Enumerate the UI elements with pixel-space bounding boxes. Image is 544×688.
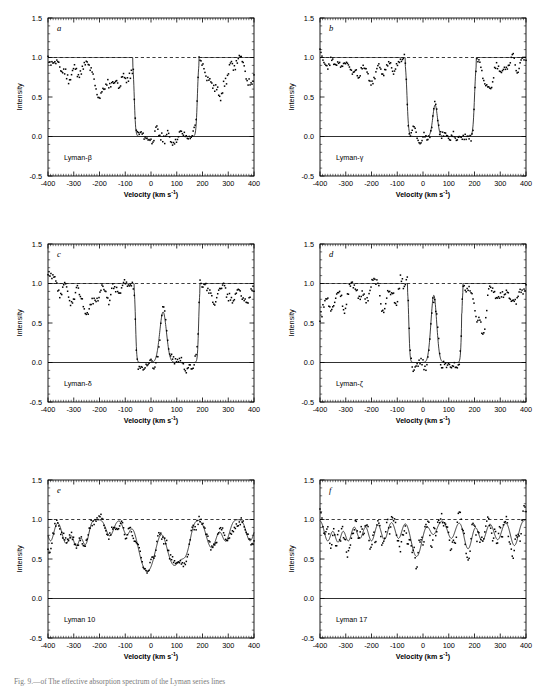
svg-text:0: 0 xyxy=(421,179,425,188)
panel-container-a: -400-300-200-1000100200300400-0.50.00.51… xyxy=(0,0,272,226)
panel-container-e: -400-300-200-1000100200300400-0.50.00.51… xyxy=(0,462,272,688)
svg-text:1.5: 1.5 xyxy=(32,240,42,249)
svg-text:100: 100 xyxy=(171,405,183,414)
line-name-label: Lyman-ζ xyxy=(336,379,364,388)
svg-text:0.0: 0.0 xyxy=(304,358,314,367)
panel-letter: d xyxy=(329,249,334,259)
svg-text:200: 200 xyxy=(196,641,208,650)
panel-letter: a xyxy=(57,23,61,33)
svg-text:100: 100 xyxy=(443,405,455,414)
data-points xyxy=(47,271,255,374)
svg-text:-200: -200 xyxy=(364,641,379,650)
svg-text:1.0: 1.0 xyxy=(32,515,42,524)
svg-text:300: 300 xyxy=(222,641,234,650)
data-points xyxy=(47,55,255,146)
svg-text:-400: -400 xyxy=(41,179,56,188)
svg-text:-100: -100 xyxy=(390,641,405,650)
x-axis-ticks: -400-300-200-1000100200300400 xyxy=(41,480,260,650)
svg-text:300: 300 xyxy=(222,179,234,188)
svg-text:-300: -300 xyxy=(66,179,81,188)
panel-container-f: -400-300-200-1000100200300400-0.50.00.51… xyxy=(272,462,544,688)
data-points xyxy=(319,274,527,372)
svg-text:-200: -200 xyxy=(92,179,107,188)
panel-b: -400-300-200-1000100200300400-0.50.00.51… xyxy=(272,0,544,226)
svg-text:1.0: 1.0 xyxy=(304,53,314,62)
svg-text:1.5: 1.5 xyxy=(304,14,314,23)
svg-text:0: 0 xyxy=(421,405,425,414)
y-axis-label: Intensity xyxy=(287,309,296,337)
svg-text:0.5: 0.5 xyxy=(304,93,314,102)
svg-text:-100: -100 xyxy=(118,405,133,414)
svg-text:-300: -300 xyxy=(338,405,353,414)
svg-text:300: 300 xyxy=(494,405,506,414)
svg-text:-300: -300 xyxy=(338,641,353,650)
svg-text:-0.5: -0.5 xyxy=(29,172,42,181)
svg-text:1.5: 1.5 xyxy=(304,476,314,485)
panel-c: -400-300-200-1000100200300400-0.50.00.51… xyxy=(0,226,272,452)
x-axis-ticks: -400-300-200-1000100200300400 xyxy=(313,244,532,414)
svg-text:-100: -100 xyxy=(390,405,405,414)
line-name-label: Lyman 17 xyxy=(336,615,367,624)
svg-text:200: 200 xyxy=(468,641,480,650)
svg-text:200: 200 xyxy=(468,405,480,414)
svg-text:-400: -400 xyxy=(313,405,328,414)
svg-text:1.5: 1.5 xyxy=(304,240,314,249)
x-axis-ticks: -400-300-200-1000100200300400 xyxy=(41,244,260,414)
svg-text:-300: -300 xyxy=(66,405,81,414)
svg-text:0.5: 0.5 xyxy=(304,555,314,564)
svg-text:100: 100 xyxy=(171,641,183,650)
svg-text:1.0: 1.0 xyxy=(304,515,314,524)
svg-text:0.5: 0.5 xyxy=(304,319,314,328)
svg-text:-0.5: -0.5 xyxy=(301,172,314,181)
svg-text:400: 400 xyxy=(520,405,532,414)
y-axis-label: Intensity xyxy=(15,83,24,111)
x-axis-label: Velocity (km s-1) xyxy=(124,415,179,425)
svg-text:400: 400 xyxy=(248,179,260,188)
svg-text:0.0: 0.0 xyxy=(304,594,314,603)
svg-text:0: 0 xyxy=(149,405,153,414)
svg-text:-200: -200 xyxy=(364,179,379,188)
x-axis-label: Velocity (km s-1) xyxy=(396,651,451,661)
svg-text:200: 200 xyxy=(468,179,480,188)
x-axis-ticks: -400-300-200-1000100200300400 xyxy=(41,18,260,188)
svg-text:300: 300 xyxy=(494,641,506,650)
svg-text:0.5: 0.5 xyxy=(32,93,42,102)
svg-text:200: 200 xyxy=(196,405,208,414)
panel-f: -400-300-200-1000100200300400-0.50.00.51… xyxy=(272,462,544,688)
svg-text:0: 0 xyxy=(149,641,153,650)
svg-text:0.0: 0.0 xyxy=(304,132,314,141)
svg-text:0: 0 xyxy=(421,641,425,650)
panel-letter: f xyxy=(329,485,333,495)
svg-text:1.0: 1.0 xyxy=(32,279,42,288)
svg-text:1.5: 1.5 xyxy=(32,14,42,23)
panel-letter: e xyxy=(57,485,61,495)
svg-text:-400: -400 xyxy=(313,179,328,188)
svg-text:-400: -400 xyxy=(41,641,56,650)
y-axis-label: Intensity xyxy=(15,309,24,337)
svg-text:-0.5: -0.5 xyxy=(301,634,314,643)
x-axis-ticks: -400-300-200-1000100200300400 xyxy=(313,18,532,188)
svg-text:-100: -100 xyxy=(118,641,133,650)
svg-text:0.0: 0.0 xyxy=(32,358,42,367)
svg-text:0: 0 xyxy=(149,179,153,188)
svg-text:0.5: 0.5 xyxy=(32,319,42,328)
svg-text:-300: -300 xyxy=(338,179,353,188)
svg-text:400: 400 xyxy=(520,179,532,188)
y-axis-label: Intensity xyxy=(15,545,24,573)
svg-text:300: 300 xyxy=(494,179,506,188)
svg-text:-0.5: -0.5 xyxy=(29,634,42,643)
spectral-figure: -400-300-200-1000100200300400-0.50.00.51… xyxy=(0,0,544,688)
svg-text:0.0: 0.0 xyxy=(32,594,42,603)
line-name-label: Lyman-γ xyxy=(336,153,364,162)
model-curve xyxy=(48,58,254,137)
svg-text:1.5: 1.5 xyxy=(32,476,42,485)
panel-container-d: -400-300-200-1000100200300400-0.50.00.51… xyxy=(272,226,544,452)
x-axis-label: Velocity (km s-1) xyxy=(124,189,179,199)
x-axis-ticks: -400-300-200-1000100200300400 xyxy=(313,480,532,650)
svg-text:-400: -400 xyxy=(313,641,328,650)
y-axis-label: Intensity xyxy=(287,83,296,111)
figure-caption: Fig. 9.—of The effective absorption spec… xyxy=(14,676,534,687)
panel-e: -400-300-200-1000100200300400-0.50.00.51… xyxy=(0,462,272,688)
model-curve xyxy=(48,284,254,363)
model-curve xyxy=(320,284,526,363)
